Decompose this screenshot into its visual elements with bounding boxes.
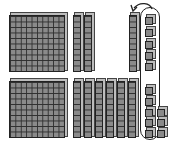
curved-arrow-icon: [0, 0, 171, 146]
